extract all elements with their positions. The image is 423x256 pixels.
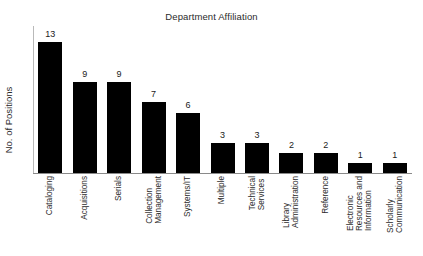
x-tick-label-text: ElectronicResources andInformation	[346, 176, 374, 231]
bar-rect	[314, 153, 338, 173]
x-tick-label-line: Resources and	[356, 176, 365, 231]
x-tick-label-line: Reference	[321, 176, 330, 214]
x-tick-label-3: Serials	[102, 176, 136, 256]
x-tick-label-line: Cataloging	[46, 176, 55, 215]
bar-4: 7	[142, 26, 166, 173]
x-tick-label-text: Reference	[321, 176, 330, 214]
bar-value-label: 9	[107, 69, 131, 80]
x-tick-label-line: Collection	[144, 176, 153, 224]
bars-group: 139976332211	[33, 26, 412, 173]
x-tick-label-6: Multiple	[205, 176, 239, 256]
bar-value-label: 3	[211, 130, 235, 141]
bar-value-label: 13	[38, 29, 62, 40]
chart-title: Department Affiliation	[0, 11, 423, 22]
bar-rect	[383, 163, 407, 173]
plot-area: 139976332211	[33, 26, 412, 174]
x-tick-label-5: Systems/IT	[171, 176, 205, 256]
x-tick-label-2: Acquisitions	[67, 176, 101, 256]
x-tick-label-8: LibraryAdministration	[274, 176, 308, 256]
bar-rect	[142, 102, 166, 173]
bar-value-label: 9	[73, 69, 97, 80]
bar-value-label: 2	[279, 140, 303, 151]
x-tick-label-text: Acquisitions	[80, 176, 89, 220]
bar-rect	[176, 113, 200, 173]
x-tick-label-text: Systems/IT	[183, 176, 192, 217]
bar-5: 6	[176, 26, 200, 173]
x-axis-line	[33, 173, 412, 174]
x-tick-label-10: ElectronicResources andInformation	[343, 176, 377, 256]
y-axis-title: No. of Positions	[0, 60, 16, 180]
bar-10: 1	[348, 26, 372, 173]
bar-value-label: 2	[314, 140, 338, 151]
x-tick-label-line: Acquisitions	[80, 176, 89, 220]
x-tick-label-text: TechnicalServices	[248, 176, 266, 210]
x-tick-label-line: Serials	[115, 176, 124, 201]
x-tick-label-text: Serials	[115, 176, 124, 201]
x-tick-label-line: Technical	[248, 176, 257, 210]
bar-rect	[38, 42, 62, 173]
bar-rect	[245, 143, 269, 173]
x-tick-label-9: Reference	[309, 176, 343, 256]
x-tick-label-line: Multiple	[218, 176, 227, 204]
bar-rect	[279, 153, 303, 173]
x-tick-label-line: Administration	[291, 176, 300, 228]
x-tick-label-line: Systems/IT	[183, 176, 192, 217]
bar-value-label: 1	[383, 150, 407, 161]
bar-9: 2	[314, 26, 338, 173]
bar-7: 3	[245, 26, 269, 173]
x-tick-label-line: Services	[257, 176, 266, 210]
x-axis-tick-labels: CatalogingAcquisitionsSerialsCollectionM…	[33, 176, 412, 256]
bar-value-label: 1	[348, 150, 372, 161]
bar-value-label: 6	[176, 100, 200, 111]
x-tick-label-line: Management	[154, 176, 163, 224]
x-tick-label-11: ScholarlyCommunication	[378, 176, 412, 256]
x-tick-label-7: TechnicalServices	[240, 176, 274, 256]
x-tick-label-text: CollectionManagement	[144, 176, 162, 224]
bar-8: 2	[279, 26, 303, 173]
bar-6: 3	[211, 26, 235, 173]
bar-11: 1	[383, 26, 407, 173]
x-tick-label-1: Cataloging	[33, 176, 67, 256]
y-axis-title-text: No. of Positions	[3, 87, 14, 154]
bar-2: 9	[73, 26, 97, 173]
bar-rect	[211, 143, 235, 173]
x-tick-label-line: Library	[282, 176, 291, 228]
x-tick-label-4: CollectionManagement	[136, 176, 170, 256]
x-tick-label-text: Cataloging	[46, 176, 55, 215]
x-tick-label-line: Scholarly	[386, 176, 395, 233]
bar-1: 13	[38, 26, 62, 173]
bar-value-label: 7	[142, 89, 166, 100]
bar-rect	[73, 82, 97, 173]
x-tick-label-line: Information	[365, 176, 374, 231]
x-tick-label-text: LibraryAdministration	[282, 176, 300, 228]
x-tick-label-text: ScholarlyCommunication	[386, 176, 404, 233]
x-tick-label-text: Multiple	[218, 176, 227, 204]
bar-value-label: 3	[245, 130, 269, 141]
bar-rect	[107, 82, 131, 173]
bar-3: 9	[107, 26, 131, 173]
bar-rect	[348, 163, 372, 173]
bar-chart: Department Affiliation No. of Positions …	[0, 0, 423, 256]
x-tick-label-line: Electronic	[346, 176, 355, 231]
x-tick-label-line: Communication	[395, 176, 404, 233]
